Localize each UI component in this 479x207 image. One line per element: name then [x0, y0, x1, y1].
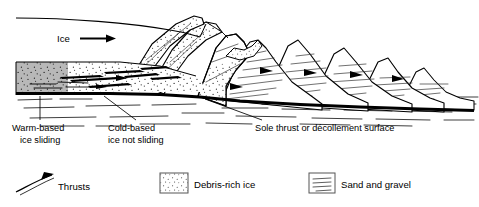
legend-label-thrusts: Thrusts [58, 181, 90, 192]
glacier-thrust-cross-section-figure: Ice Warm-based ice sliding Cold-based ic… [0, 0, 479, 207]
annotation-warm-based-line1: Warm-based [12, 123, 64, 133]
legend-label-debris-rich-ice: Debris-rich ice [194, 179, 255, 190]
ice-flow-label: Ice [57, 33, 70, 44]
annotation-sole-thrust-line1: Sole thrust or décollement surface [255, 123, 394, 133]
annotation-sole-thrust: Sole thrust or décollement surface [255, 123, 394, 133]
stipple-box-swatch [160, 173, 188, 193]
annotation-warm-based-line2: ice sliding [20, 135, 60, 145]
legend-label-sand-and-gravel: Sand and gravel [341, 179, 411, 190]
annotation-cold-based-line1: Cold-based [108, 123, 155, 133]
annotation-cold-based-line2: ice not sliding [108, 135, 164, 145]
